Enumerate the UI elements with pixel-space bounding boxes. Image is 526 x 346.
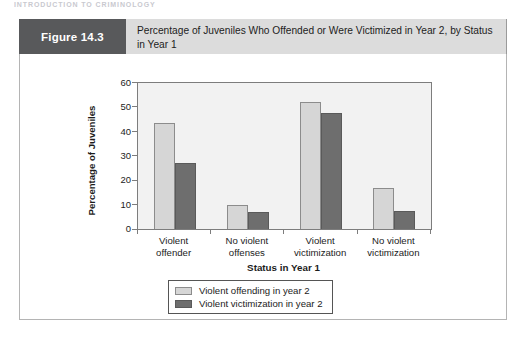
plot-area	[137, 82, 432, 230]
bar-offending-no-violent-offenses	[227, 205, 248, 229]
bar-group	[358, 83, 431, 229]
bar-victimization-no-violent-offenses	[248, 212, 269, 229]
x-axis-tick	[210, 229, 211, 234]
legend-item-label: Violent victimization in year 2	[199, 298, 323, 309]
bar-offending-violent-offender	[154, 123, 175, 229]
legend-swatch-icon	[175, 300, 192, 308]
figure-caption: Percentage of Juveniles Who Offended or …	[126, 19, 507, 54]
legend-item: Violent offending in year 2	[175, 284, 323, 297]
legend-item: Violent victimization in year 2	[175, 297, 323, 310]
bar-series-container	[138, 83, 431, 229]
x-label-line: No violent	[210, 235, 283, 247]
bar-group	[211, 83, 284, 229]
x-axis-category-label: Violent victimization	[284, 235, 357, 258]
bar-victimization-no-violent-victimization	[394, 211, 415, 229]
x-axis-tick	[137, 229, 138, 234]
bar-offending-no-violent-victimization	[373, 188, 394, 229]
bar-victimization-violent-offender	[175, 163, 196, 229]
x-label-line: Violent	[137, 235, 210, 247]
bar-group	[138, 83, 211, 229]
y-tick-label: 30	[120, 150, 131, 161]
y-tick-label: 50	[120, 101, 131, 112]
legend-swatch-icon	[175, 287, 192, 295]
figure-number-label: Figure 14.3	[19, 19, 126, 54]
y-tick-label: 40	[120, 125, 131, 136]
x-label-line: Violent	[284, 235, 357, 247]
x-label-line: offender	[137, 247, 210, 259]
x-axis-title: Status in Year 1	[137, 262, 430, 273]
x-axis-tick	[357, 229, 358, 234]
x-label-line: No violent	[357, 235, 430, 247]
figure-header: Figure 14.3 Percentage of Juveniles Who …	[19, 19, 507, 54]
x-label-line: victimization	[357, 247, 430, 259]
x-axis-tick	[430, 229, 431, 234]
page-running-head: INTRODUCTION TO CRIMINOLOGY	[14, 0, 156, 9]
figure-body-panel: Percentage of Juveniles 60 50 40 30 20 1…	[19, 54, 507, 320]
x-axis-category-labels: Violent offender No violent offenses Vio…	[137, 235, 430, 258]
y-tick-label: 0	[126, 223, 131, 234]
bar-chart: Percentage of Juveniles 60 50 40 30 20 1…	[20, 54, 508, 320]
chart-legend: Violent offending in year 2 Violent vict…	[168, 280, 333, 314]
x-axis-category-label: No violent victimization	[357, 235, 430, 258]
y-tick-label: 10	[120, 198, 131, 209]
x-label-line: offenses	[210, 247, 283, 259]
x-label-line: victimization	[284, 247, 357, 259]
bar-group	[285, 83, 358, 229]
bar-victimization-violent-victimization	[321, 113, 342, 229]
x-axis-tick	[283, 229, 284, 234]
x-axis-category-label: Violent offender	[137, 235, 210, 258]
y-axis-title: Percentage of Juveniles	[86, 86, 97, 236]
y-tick-label: 60	[120, 77, 131, 88]
y-tick-label: 20	[120, 174, 131, 185]
x-axis-category-label: No violent offenses	[210, 235, 283, 258]
legend-item-label: Violent offending in year 2	[199, 285, 310, 296]
y-axis-tick-labels: 60 50 40 30 20 10 0	[98, 82, 131, 228]
bar-offending-violent-victimization	[300, 102, 321, 229]
